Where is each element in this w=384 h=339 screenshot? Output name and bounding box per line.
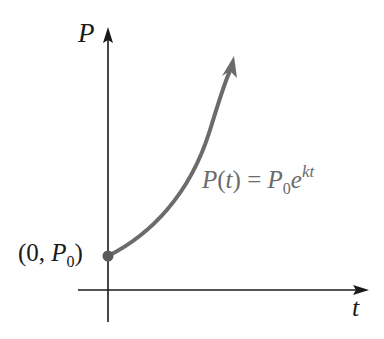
x-axis xyxy=(78,285,369,295)
growth-curve xyxy=(108,56,237,256)
initial-point-dot xyxy=(103,251,114,262)
y-axis-label: P xyxy=(78,18,95,49)
exponential-growth-diagram: P t (0, P0) PP((t) = P0ekt xyxy=(0,0,384,339)
graph-svg xyxy=(0,0,384,339)
y-axis xyxy=(103,27,113,322)
x-axis-label: t xyxy=(352,293,359,323)
initial-point-label: (0, P0) xyxy=(18,239,83,271)
growth-formula: PP((t) = P0ekt xyxy=(202,162,314,198)
